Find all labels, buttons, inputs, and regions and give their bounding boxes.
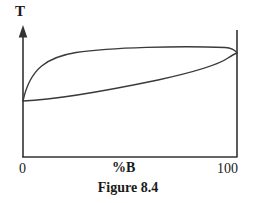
figure-caption: Figure 8.4 [0, 180, 256, 196]
solidus-curve [23, 53, 237, 101]
x-axis-tick-label-0: 0 [19, 161, 26, 176]
liquidus-curve [23, 47, 237, 101]
y-axis-arrowhead-icon [19, 25, 28, 38]
figure-container: T 0 %B 100 Figure 8.4 [0, 0, 256, 203]
x-axis-label: %B [112, 160, 135, 175]
x-axis-tick-label-100: 100 [217, 161, 238, 176]
y-axis-label: T [15, 3, 25, 19]
